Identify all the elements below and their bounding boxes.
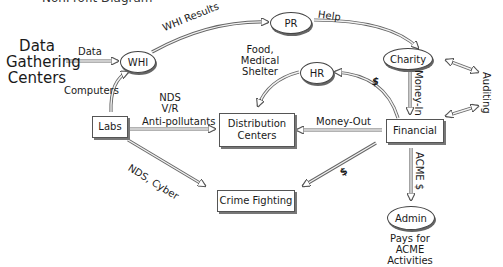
label-dollar-hr: $ [372,76,379,87]
node-pr[interactable]: PR [270,12,312,34]
label-auditing: Auditing [481,72,492,114]
label-data: Data [78,46,102,57]
label-anti-pollutants: Anti-pollutants [142,116,215,127]
node-hr[interactable]: HR [300,62,334,84]
label-nds-vr: NDS V/R [155,92,185,114]
label-money-out: Money-Out [316,116,371,127]
label-food-medical-shelter: Food, Medical Shelter [238,44,282,77]
node-distribution-centers[interactable]: Distribution Centers [219,113,295,147]
arrow-food [258,72,299,106]
node-data-gathering-centers[interactable]: Data Gathering Centers [6,38,68,86]
node-crime-fighting[interactable]: Crime Fighting [217,190,295,212]
label-computers: Computers [64,85,119,96]
node-whi[interactable]: WHI [120,51,156,73]
label-money-in: Money-In [413,70,424,116]
diagram-canvas: NonProfit Diagram [0,0,503,267]
node-labs[interactable]: Labs [92,116,128,138]
admin-caption: Pays for ACME Activities [374,233,446,266]
label-acme: ACME $ [414,152,425,190]
node-admin[interactable]: Admin [387,206,435,230]
node-financial[interactable]: Financial [386,119,444,143]
node-charity[interactable]: Charity [383,48,433,70]
